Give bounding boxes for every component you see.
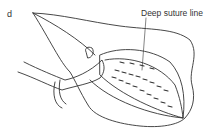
surgical-illustration — [0, 0, 221, 140]
callout-leader — [142, 18, 146, 70]
tissue-outline — [33, 13, 194, 127]
retractor — [18, 60, 104, 90]
wound-edge — [100, 50, 184, 118]
